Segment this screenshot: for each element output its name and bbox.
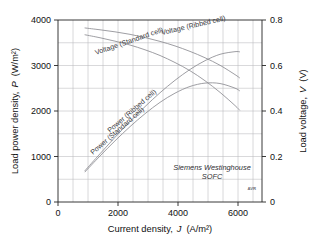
- y-axis-left-title-units: (W/m²): [10, 48, 20, 76]
- source-note-line2: SOFC: [202, 172, 223, 181]
- y-axis-right-title-text: Load voltage,: [298, 97, 308, 153]
- y-axis-left-title: Load power density,P(W/m²): [10, 48, 20, 174]
- y-left-tick-label: 0: [46, 197, 51, 207]
- x-axis-title-text: Current density,: [108, 224, 173, 234]
- x-tick-label: 0: [55, 208, 60, 218]
- x-axis-ticks: [58, 202, 238, 206]
- x-axis-title-symbol: J: [176, 224, 182, 234]
- y-left-tick-label: 2000: [31, 106, 51, 116]
- y-right-tick-label: 0.8: [270, 15, 283, 25]
- y-axis-left-labels: 4000 3000 2000 1000 0: [31, 15, 51, 207]
- y-left-tick-label: 4000: [31, 15, 51, 25]
- y-right-tick-label: 0.6: [270, 61, 283, 71]
- source-note-line1: Siemens Westinghouse: [173, 163, 251, 172]
- y-axis-left-title-symbol: P: [10, 81, 20, 88]
- x-tick-label: 4000: [168, 208, 188, 218]
- y-axis-right-title-units: (V): [298, 69, 308, 81]
- y-right-tick-label: 0.2: [270, 152, 283, 162]
- y-axis-left-title-text: Load power density,: [10, 92, 20, 175]
- y-right-tick-label: 0: [270, 197, 275, 207]
- x-axis-labels: 0 2000 4000 6000: [55, 208, 248, 218]
- x-tick-label: 2000: [108, 208, 128, 218]
- x-axis-title: Current density,J(A/m²): [108, 224, 212, 234]
- y-axis-right-ticks: [262, 20, 266, 202]
- y-left-tick-label: 3000: [31, 61, 51, 71]
- y-axis-left-ticks: [54, 20, 58, 202]
- chart-svg: 4000 3000 2000 1000 0 0.8 0.6 0.4 0.2 0: [0, 0, 322, 248]
- x-axis-title-units: (A/m²): [186, 224, 212, 234]
- y-right-tick-label: 0.4: [270, 106, 283, 116]
- y-axis-right-title: Load voltage,V(V): [298, 69, 308, 152]
- y-axis-right-labels: 0.8 0.6 0.4 0.2 0: [270, 15, 283, 207]
- y-axis-right-title-symbol: V: [298, 86, 308, 93]
- y-left-tick-label: 1000: [31, 152, 51, 162]
- x-tick-label: 6000: [228, 208, 248, 218]
- chart-figure: 4000 3000 2000 1000 0 0.8 0.6 0.4 0.2 0: [0, 0, 322, 248]
- watermark-label: AVR: [247, 186, 256, 191]
